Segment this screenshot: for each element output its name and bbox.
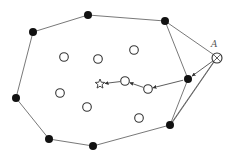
filled-point [45, 135, 53, 143]
filled-point [84, 11, 92, 19]
filled-point [184, 75, 192, 83]
hull-edge-secondary [172, 62, 214, 123]
open-point [130, 46, 139, 55]
open-point [83, 103, 92, 112]
open-point [56, 89, 65, 98]
filled-point [29, 28, 37, 36]
filled-points [12, 11, 192, 150]
convex-hull-diagram: A [0, 0, 232, 160]
open-point [60, 53, 69, 62]
inner-chain [165, 21, 214, 125]
arrow-segment [105, 82, 120, 84]
arrow-segment [153, 80, 183, 88]
star-shape [95, 79, 105, 88]
inner-edge [165, 21, 188, 125]
filled-point [161, 17, 169, 25]
open-point [94, 55, 103, 64]
filled-point [89, 142, 97, 150]
point-a [212, 53, 222, 63]
arrow-segment [130, 83, 144, 88]
open-points [56, 46, 153, 123]
open-point [135, 114, 144, 123]
open-point [121, 77, 130, 86]
filled-point [166, 121, 174, 129]
open-point [144, 85, 153, 94]
label-a: A [210, 39, 218, 49]
filled-point [12, 94, 20, 102]
star-icon [95, 79, 105, 88]
